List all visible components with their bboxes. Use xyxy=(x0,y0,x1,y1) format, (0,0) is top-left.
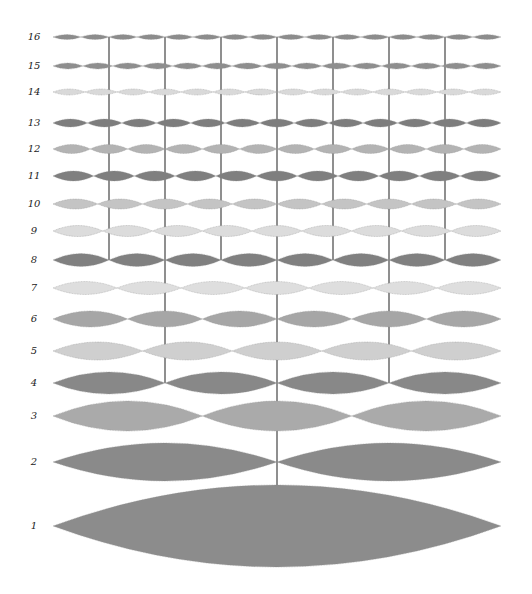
antinode-lens xyxy=(221,35,249,40)
antinode-lens xyxy=(473,35,501,40)
antinode-lens xyxy=(352,311,427,327)
mode-row-13 xyxy=(53,119,501,127)
antinode-lens xyxy=(165,254,221,267)
antinode-lens xyxy=(94,171,135,181)
antinode-lens xyxy=(373,89,405,95)
antinode-lens xyxy=(417,35,445,40)
antinode-lens xyxy=(134,171,175,181)
antinode-lens xyxy=(128,145,165,154)
antinode-lens xyxy=(456,199,501,209)
antinode-lens xyxy=(277,199,322,209)
antinode-lens xyxy=(309,89,341,95)
antinode-lens xyxy=(187,199,232,209)
antinode-lens xyxy=(53,119,87,127)
antinode-lens xyxy=(445,35,473,40)
harmonic-series-diagram: 16151413121110987654321 xyxy=(0,0,532,594)
antinode-lens xyxy=(149,89,181,95)
antinode-lens xyxy=(322,199,367,209)
antinode-lens xyxy=(352,145,389,154)
antinode-lens xyxy=(53,485,501,567)
antinode-lens xyxy=(128,311,203,327)
mode-row-5 xyxy=(53,342,501,360)
antinode-lens xyxy=(262,63,292,69)
row-label: 11 xyxy=(22,170,46,182)
antinode-lens xyxy=(202,63,232,69)
antinode-lens xyxy=(202,145,239,154)
antinode-lens xyxy=(277,311,352,327)
antinode-lens xyxy=(277,89,309,95)
antinode-lens xyxy=(432,119,466,127)
antinode-lens xyxy=(165,145,202,154)
row-label: 13 xyxy=(22,117,46,129)
antinode-lens xyxy=(53,89,85,95)
antinode-lens xyxy=(277,145,314,154)
antinode-lens xyxy=(245,89,277,95)
antinode-lens xyxy=(202,311,277,327)
antinode-lens xyxy=(329,119,363,127)
antinode-lens xyxy=(172,63,202,69)
antinode-lens xyxy=(81,35,109,40)
antinode-lens xyxy=(53,63,83,69)
antinode-lens xyxy=(53,254,109,267)
antinode-lens xyxy=(87,119,121,127)
antinode-lens xyxy=(156,119,190,127)
antinode-lens xyxy=(232,63,262,69)
antinode-lens xyxy=(232,199,277,209)
antinode-lens xyxy=(202,401,351,431)
mode-row-9 xyxy=(53,226,501,237)
mode-row-15 xyxy=(53,63,501,69)
antinode-lens xyxy=(305,35,333,40)
antinode-lens xyxy=(460,171,501,181)
antinode-lens xyxy=(437,282,501,295)
standing-wave-modes xyxy=(0,0,532,594)
antinode-lens xyxy=(277,372,389,394)
antinode-lens xyxy=(437,89,469,95)
mode-row-1 xyxy=(53,485,501,567)
antinode-lens xyxy=(53,311,128,327)
antinode-lens xyxy=(411,63,441,69)
antinode-lens xyxy=(221,254,277,267)
antinode-lens xyxy=(389,372,501,394)
antinode-lens xyxy=(232,342,322,360)
antinode-lens xyxy=(117,282,181,295)
antinode-lens xyxy=(363,119,397,127)
antinode-lens xyxy=(83,63,113,69)
antinode-lens xyxy=(471,63,501,69)
antinode-lens xyxy=(469,89,501,95)
antinode-lens xyxy=(411,199,456,209)
antinode-lens xyxy=(165,372,277,394)
antinode-lens xyxy=(277,35,305,40)
row-label: 9 xyxy=(22,225,46,237)
antinode-lens xyxy=(109,254,165,267)
antinode-lens xyxy=(398,119,432,127)
antinode-lens xyxy=(252,226,302,237)
antinode-lens xyxy=(257,171,298,181)
antinode-lens xyxy=(98,199,143,209)
antinode-lens xyxy=(165,35,193,40)
row-label: 4 xyxy=(22,377,46,389)
antinode-lens xyxy=(143,342,233,360)
antinode-lens xyxy=(352,63,382,69)
row-label: 5 xyxy=(22,345,46,357)
antinode-lens xyxy=(53,171,94,181)
antinode-lens xyxy=(405,89,437,95)
antinode-lens xyxy=(411,342,501,360)
antinode-lens xyxy=(53,226,103,237)
antinode-lens xyxy=(202,226,252,237)
antinode-lens xyxy=(245,282,309,295)
antinode-lens xyxy=(379,171,420,181)
antinode-lens xyxy=(382,63,412,69)
row-label: 14 xyxy=(22,86,46,98)
antinode-lens xyxy=(181,282,245,295)
mode-row-7 xyxy=(53,282,501,295)
antinode-lens xyxy=(314,145,351,154)
mode-row-11 xyxy=(53,171,501,181)
antinode-lens xyxy=(175,171,216,181)
row-label: 6 xyxy=(22,313,46,325)
antinode-lens xyxy=(53,199,98,209)
antinode-lens xyxy=(338,171,379,181)
antinode-lens xyxy=(341,89,373,95)
antinode-lens xyxy=(445,254,501,267)
antinode-lens xyxy=(467,119,501,127)
row-label: 15 xyxy=(22,60,46,72)
